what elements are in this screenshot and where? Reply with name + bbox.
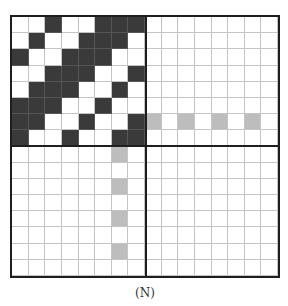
grid-cell-white <box>261 260 278 276</box>
grid-cell-white <box>112 195 129 211</box>
grid-cell-white <box>95 114 112 130</box>
grid-cell-white <box>12 260 29 276</box>
grid-cell-white <box>29 244 46 260</box>
grid-cell-white <box>228 49 245 65</box>
grid-cell-white <box>228 114 245 130</box>
grid-cell-white <box>29 17 46 33</box>
grid-cell-white <box>62 17 79 33</box>
grid-cell-gray <box>112 147 129 163</box>
grid-cell-white <box>145 179 162 195</box>
grid-cell-white <box>245 98 262 114</box>
grid-cell-white <box>195 98 212 114</box>
grid-cell-white <box>145 17 162 33</box>
grid-cell-white <box>261 66 278 82</box>
grid-cell-white <box>128 211 145 227</box>
grid-cell-white <box>45 147 62 163</box>
grid-cell-black <box>62 66 79 82</box>
grid-cell-white <box>162 227 179 243</box>
grid-cell-white <box>261 98 278 114</box>
grid-cell-white <box>178 211 195 227</box>
grid-cell-gray <box>112 179 129 195</box>
grid-cell-black <box>112 82 129 98</box>
grid-cell-white <box>245 33 262 49</box>
grid-cell-white <box>212 147 229 163</box>
grid-cell-white <box>29 179 46 195</box>
grid-cell-white <box>79 82 96 98</box>
grid-cell-white <box>45 244 62 260</box>
grid-cell-white <box>29 163 46 179</box>
grid-cell-white <box>195 244 212 260</box>
grid-cell-white <box>12 163 29 179</box>
grid-cell-white <box>162 147 179 163</box>
grid-cell-white <box>162 195 179 211</box>
grid-cell-white <box>195 195 212 211</box>
grid-cell-white <box>162 179 179 195</box>
grid-cell-white <box>261 147 278 163</box>
grid-cell-white <box>195 49 212 65</box>
grid-cell-white <box>228 163 245 179</box>
grid-cell-white <box>145 260 162 276</box>
grid-cell-black <box>29 114 46 130</box>
grid-cell-gray <box>112 244 129 260</box>
grid-cell-white <box>195 114 212 130</box>
grid-cell-white <box>212 66 229 82</box>
grid-cell-white <box>79 195 96 211</box>
grid-cell-white <box>162 163 179 179</box>
grid-cell-white <box>261 49 278 65</box>
grid-cell-white <box>95 227 112 243</box>
grid-cell-white <box>79 17 96 33</box>
grid-cell-white <box>145 147 162 163</box>
grid-cell-white <box>212 82 229 98</box>
grid-cell-white <box>112 227 129 243</box>
grid-cell-white <box>62 179 79 195</box>
grid-cell-white <box>212 163 229 179</box>
grid-cell-white <box>178 195 195 211</box>
grid-cell-white <box>228 147 245 163</box>
grid-cell-white <box>212 211 229 227</box>
grid-cell-white <box>228 66 245 82</box>
grid-cell-black <box>112 17 129 33</box>
grid-cell-white <box>62 163 79 179</box>
grid-cell-white <box>228 227 245 243</box>
grid-cell-black <box>29 82 46 98</box>
grid-cell-white <box>212 49 229 65</box>
grid-cell-white <box>62 260 79 276</box>
grid-cell-white <box>12 147 29 163</box>
grid-cell-white <box>162 17 179 33</box>
grid-cell-white <box>162 244 179 260</box>
grid-cell-white <box>112 98 129 114</box>
grid-cell-white <box>145 244 162 260</box>
grid-cell-white <box>228 260 245 276</box>
grid-cell-white <box>261 179 278 195</box>
grid-cell-white <box>12 179 29 195</box>
grid-cell-white <box>162 114 179 130</box>
grid-cell-white <box>245 211 262 227</box>
grid-cell-white <box>245 66 262 82</box>
grid-cell-white <box>45 163 62 179</box>
grid-cell-white <box>245 244 262 260</box>
grid-cell-black <box>79 49 96 65</box>
grid-cell-white <box>12 227 29 243</box>
grid-cell-white <box>12 211 29 227</box>
grid-cell-white <box>12 244 29 260</box>
grid-cell-white <box>79 98 96 114</box>
grid-cell-white <box>62 195 79 211</box>
grid-cell-white <box>195 66 212 82</box>
grid-cell-white <box>62 114 79 130</box>
grid-cell-white <box>162 260 179 276</box>
grid-cell-white <box>245 147 262 163</box>
grid-cell-black <box>79 33 96 49</box>
grid-cell-white <box>228 17 245 33</box>
grid-cell-white <box>261 163 278 179</box>
grid-cell-white <box>95 211 112 227</box>
grid-cell-white <box>145 82 162 98</box>
grid-cell-white <box>128 260 145 276</box>
grid-cell-white <box>195 17 212 33</box>
grid-cell-white <box>228 33 245 49</box>
grid-cell-white <box>245 82 262 98</box>
grid-cell-white <box>29 195 46 211</box>
grid-cell-black <box>95 98 112 114</box>
grid-cell-white <box>261 114 278 130</box>
grid-cell-white <box>195 33 212 49</box>
grid-cell-white <box>228 98 245 114</box>
